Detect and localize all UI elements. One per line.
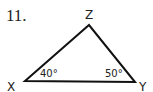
angle-label-x: 40° [40, 68, 58, 79]
vertex-label-x: X [7, 80, 15, 92]
angle-label-y: 50° [105, 68, 123, 79]
triangle-diagram: Z X Y 40° 50° [0, 0, 153, 92]
vertex-label-z: Z [85, 8, 93, 22]
vertex-label-y: Y [138, 80, 147, 92]
